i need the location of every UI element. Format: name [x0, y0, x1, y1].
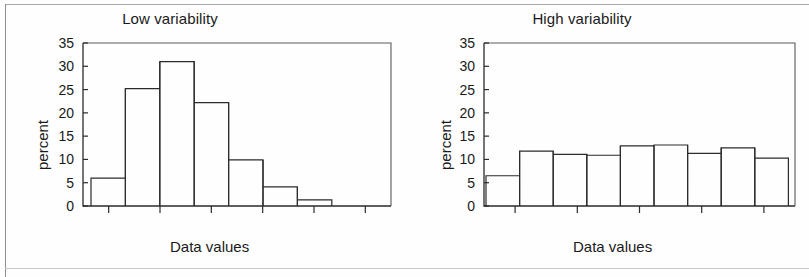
plot-area-high-variability: 05101520253035: [405, 0, 809, 277]
y-axis-tick-label: 35: [58, 35, 74, 51]
y-axis-tick-label: 25: [58, 82, 74, 98]
y-axis-tick-label: 35: [459, 35, 475, 51]
y-axis-tick-label: 20: [58, 105, 74, 121]
y-axis-tick-label: 15: [459, 128, 475, 144]
histogram-bars: [91, 62, 332, 206]
y-axis-tick-label: 30: [58, 58, 74, 74]
figure-container: Low variability percent Data values 0510…: [0, 0, 809, 277]
y-axis-tick-label: 5: [467, 175, 475, 191]
y-axis-tick-label: 0: [66, 198, 74, 214]
y-axis-tick-label: 25: [459, 82, 475, 98]
plot-area-low-variability: 05101520253035: [0, 0, 404, 277]
plot-frame: [83, 43, 391, 206]
y-axis-tick-label: 0: [467, 198, 475, 214]
y-axis-tick-label: 5: [66, 175, 74, 191]
y-axis-tick-label: 30: [459, 58, 475, 74]
chart-panel-high-variability: High variability percent Data values 051…: [405, 0, 809, 277]
chart-panel-low-variability: Low variability percent Data values 0510…: [0, 0, 404, 277]
y-axis-tick-label: 10: [459, 151, 475, 167]
y-axis-tick-label: 10: [58, 151, 74, 167]
plot-axes: [484, 43, 795, 206]
y-axis-tick-label: 15: [58, 128, 74, 144]
plot-frame: [484, 43, 795, 206]
y-axis-tick-label: 20: [459, 105, 475, 121]
histogram-bars: [486, 145, 788, 206]
plot-axes: [83, 43, 391, 206]
